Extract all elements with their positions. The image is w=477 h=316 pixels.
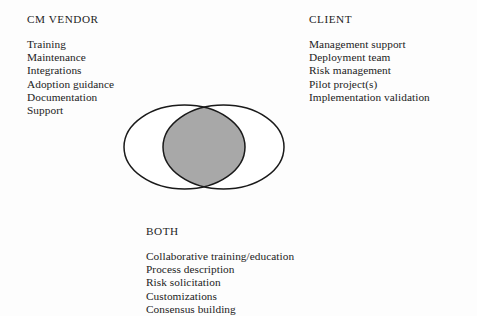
list-item: Integrations	[27, 64, 114, 77]
list-item: Collaborative training/education	[146, 250, 294, 263]
venn-diagram	[118, 99, 290, 195]
group-both-heading: BOTH	[146, 225, 294, 238]
list-item: Deployment team	[309, 51, 430, 64]
list-item: Implementation validation	[309, 91, 430, 104]
list-item: Adoption guidance	[27, 78, 114, 91]
group-both-list: Collaborative training/education Process…	[146, 250, 294, 316]
group-client: CLIENT Management support Deployment tea…	[309, 13, 430, 104]
list-item: Process description	[146, 263, 294, 276]
group-client-list: Management support Deployment team Risk …	[309, 38, 430, 104]
list-item: Customizations	[146, 290, 294, 303]
list-item: Risk management	[309, 64, 430, 77]
list-item: Documentation	[27, 91, 114, 104]
list-item: Support	[27, 104, 114, 117]
list-item: Maintenance	[27, 51, 114, 64]
list-item: Consensus building	[146, 303, 294, 316]
group-cm-vendor-heading: CM VENDOR	[27, 13, 114, 26]
group-both: BOTH Collaborative training/education Pr…	[146, 225, 294, 316]
group-cm-vendor: CM VENDOR Training Maintenance Integrati…	[27, 13, 114, 117]
list-item: Pilot project(s)	[309, 78, 430, 91]
group-cm-vendor-list: Training Maintenance Integrations Adopti…	[27, 38, 114, 117]
group-client-heading: CLIENT	[309, 13, 430, 26]
list-item: Training	[27, 38, 114, 51]
list-item: Management support	[309, 38, 430, 51]
list-item: Risk solicitation	[146, 276, 294, 289]
